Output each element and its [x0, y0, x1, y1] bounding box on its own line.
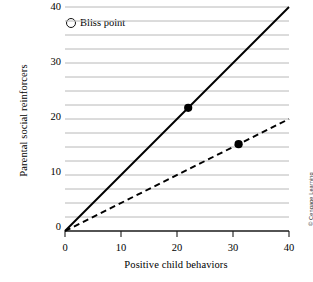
- figure-container: Parental social reinforcers 40 30 20 10 …: [0, 0, 313, 282]
- data-point-dashed-line: [235, 140, 243, 148]
- data-point-solid-line: [184, 104, 192, 112]
- gridlines: [65, 7, 289, 217]
- plot-svg: [0, 0, 313, 282]
- x-axis-ticks: [65, 231, 289, 237]
